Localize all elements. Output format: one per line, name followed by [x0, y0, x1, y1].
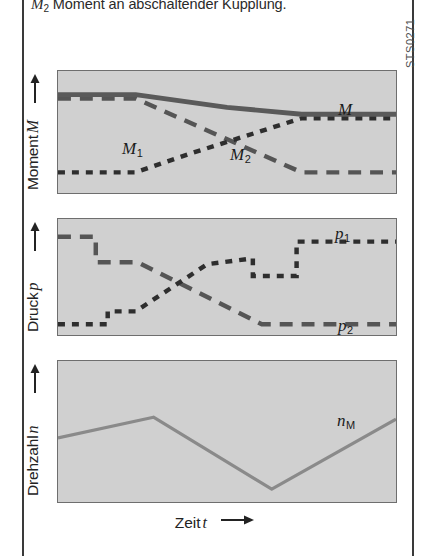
up-arrow-icon-druck: [28, 222, 42, 252]
figure-root: M2 Moment an abschaltender Kupplung. STS…: [0, 0, 430, 556]
ylabel-moment-text: MomentM: [24, 120, 42, 190]
ylabel-moment-symbol: M: [24, 120, 41, 135]
ylabel-druck: Druckp: [22, 218, 46, 336]
xlabel-zeit: Zeitt: [0, 512, 430, 532]
up-arrow-icon-drehzahl: [28, 364, 42, 394]
curve-label-nM: nM: [337, 411, 355, 431]
xlabel-word: Zeit: [175, 514, 201, 531]
ylabel-druck-symbol: p: [24, 283, 41, 293]
figure-caption: M2 Moment an abschaltender Kupplung.: [31, 0, 391, 18]
source-id: STS0271: [390, 2, 410, 72]
chart-panel-drehzahl: [57, 360, 397, 503]
ylabel-druck-word: Druck: [24, 293, 41, 332]
curve-p2: [58, 237, 396, 324]
curve-label-p1: p1: [335, 224, 350, 244]
source-id-text: STS0271: [404, 19, 416, 68]
frame-rule-right: [412, 0, 414, 556]
curve-label-M: M: [338, 100, 352, 120]
ylabel-moment: MomentM: [22, 70, 46, 194]
curve-label-M2: M2: [230, 145, 251, 165]
chart-svg-drehzahl: [58, 361, 396, 502]
xlabel-symbol: t: [201, 514, 207, 531]
ylabel-druck-text: Druckp: [24, 283, 42, 332]
curve-M2: [58, 118, 396, 172]
ylabel-moment-word: Moment: [24, 135, 41, 190]
ylabel-drehzahl: Drehzahln: [22, 360, 46, 503]
ylabel-drehzahl-text: Drehzahln: [24, 426, 42, 496]
caption-symbol: M: [31, 0, 43, 12]
caption-text: Moment an abschaltender Kupplung.: [53, 0, 287, 12]
chart-svg-moment: [58, 71, 396, 193]
caption-subscript: 2: [43, 3, 48, 14]
chart-panel-moment: [57, 70, 397, 194]
curve-label-M1: M1: [122, 139, 143, 159]
ylabel-drehzahl-word: Drehzahl: [24, 436, 41, 496]
curve-label-p2: p2: [338, 316, 353, 336]
curve-p1: [58, 242, 396, 325]
right-arrow-icon: [221, 512, 255, 530]
ylabel-drehzahl-symbol: n: [24, 426, 41, 436]
up-arrow-icon-moment: [28, 74, 42, 104]
